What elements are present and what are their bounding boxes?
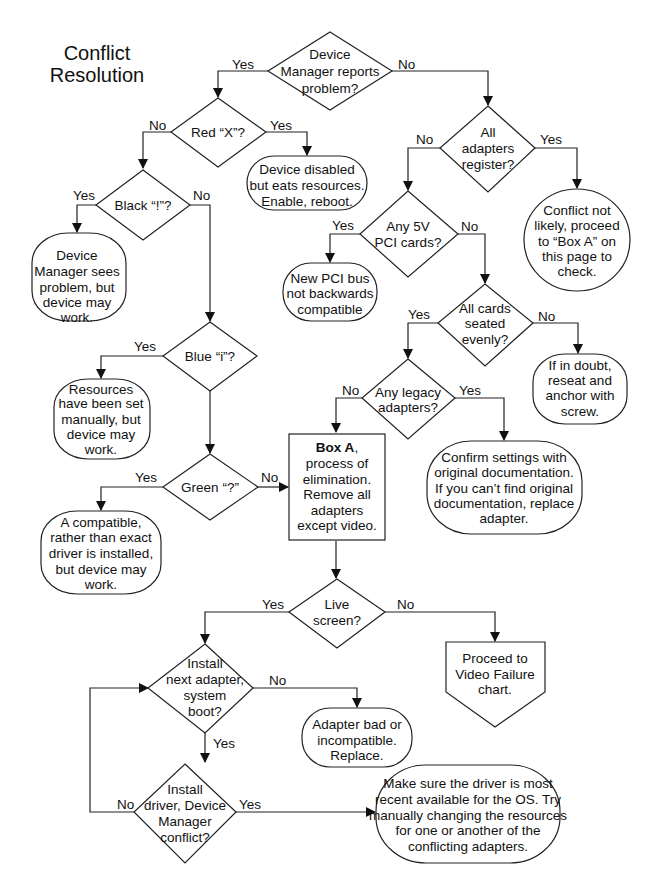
- svg-text:Yes: Yes: [232, 57, 254, 72]
- decision-red-x: Red “X”?: [171, 98, 266, 167]
- svg-text:compatible: compatible: [297, 302, 362, 317]
- svg-text:problem, but: problem, but: [39, 280, 114, 295]
- svg-text:process of: process of: [306, 456, 369, 471]
- svg-text:device may: device may: [43, 295, 112, 310]
- svg-text:No: No: [269, 673, 286, 688]
- svg-text:Yes: Yes: [332, 218, 354, 233]
- svg-text:for one or another of the: for one or another of the: [396, 823, 541, 838]
- svg-text:seated: seated: [465, 316, 506, 331]
- svg-text:driver, Device: driver, Device: [144, 798, 226, 813]
- svg-text:Blue “i”?: Blue “i”?: [185, 349, 235, 364]
- svg-text:No: No: [149, 118, 166, 133]
- svg-text:Video Failure: Video Failure: [455, 667, 534, 682]
- svg-text:Manager: Manager: [158, 814, 212, 829]
- svg-text:Green “?”: Green “?”: [181, 480, 239, 495]
- svg-text:device may: device may: [67, 427, 136, 442]
- outcome-video-failure: Proceed to Video Failure chart.: [446, 642, 545, 727]
- svg-text:Conflict not: Conflict not: [543, 203, 611, 218]
- svg-text:Device: Device: [56, 248, 97, 263]
- svg-text:evenly?: evenly?: [462, 332, 509, 347]
- svg-text:Any 5V: Any 5V: [386, 219, 430, 234]
- outcome-disabled: Device disabled but eats resources. Enab…: [247, 156, 367, 210]
- svg-text:Yes: Yes: [213, 736, 235, 751]
- svg-text:recent available for the OS. T: recent available for the OS. Try: [375, 792, 561, 807]
- decision-any-5v: Any 5V PCI cards?: [360, 191, 458, 277]
- svg-text:rather than exact: rather than exact: [50, 530, 152, 545]
- svg-text:A compatible,: A compatible,: [60, 515, 141, 530]
- svg-text:adapters?: adapters?: [378, 400, 438, 415]
- svg-text:Remove all: Remove all: [303, 487, 371, 502]
- svg-text:No: No: [538, 309, 555, 324]
- svg-text:work.: work.: [84, 577, 117, 592]
- svg-text:Yes: Yes: [134, 339, 156, 354]
- svg-text:Resolution: Resolution: [50, 64, 145, 86]
- svg-text:Enable, reboot.: Enable, reboot.: [261, 194, 353, 209]
- outcome-new-pci: New PCI bus not backwards compatible: [283, 263, 377, 321]
- svg-text:check.: check.: [557, 264, 596, 279]
- svg-text:system: system: [184, 688, 227, 703]
- svg-text:If you can’t find original: If you can’t find original: [435, 481, 573, 496]
- svg-text:adapters: adapters: [462, 141, 515, 156]
- svg-text:Make sure the driver is most: Make sure the driver is most: [383, 776, 553, 791]
- svg-text:screen?: screen?: [313, 613, 361, 628]
- svg-text:Install: Install: [187, 656, 222, 671]
- process-box-a: Box A, process of elimination. Remove al…: [289, 434, 385, 540]
- svg-text:problem?: problem?: [302, 81, 358, 96]
- svg-text:conflicting adapters.: conflicting adapters.: [408, 839, 528, 854]
- svg-text:Any legacy: Any legacy: [375, 385, 441, 400]
- svg-text:All cards: All cards: [459, 301, 511, 316]
- decision-install-driver: Install driver, Device Manager conflict?: [134, 764, 236, 863]
- outcome-dm-sees: Device Manager sees problem, but device …: [32, 233, 126, 325]
- svg-text:except video.: except video.: [297, 518, 377, 533]
- svg-text:manually changing the resource: manually changing the resources: [369, 808, 567, 823]
- svg-text:Red “X”?: Red “X”?: [191, 125, 245, 140]
- box-a-title: Box A: [316, 440, 355, 455]
- svg-text:Yes: Yes: [270, 118, 292, 133]
- svg-text:Yes: Yes: [262, 597, 284, 612]
- svg-text:anchor with: anchor with: [545, 388, 614, 403]
- svg-text:Proceed to: Proceed to: [462, 651, 527, 666]
- svg-text:Conflict: Conflict: [64, 42, 131, 64]
- svg-text:No: No: [398, 57, 415, 72]
- svg-text:manually, but: manually, but: [61, 412, 141, 427]
- svg-text:Manager sees: Manager sees: [34, 264, 120, 279]
- svg-text:driver is installed,: driver is installed,: [49, 546, 153, 561]
- outcome-reseat: If in doubt, reseat and anchor with scre…: [533, 354, 627, 424]
- svg-text:register?: register?: [462, 157, 515, 172]
- svg-text:to “Box A” on: to “Box A” on: [538, 234, 616, 249]
- svg-text:not backwards: not backwards: [286, 286, 373, 301]
- svg-text:Device disabled: Device disabled: [259, 162, 354, 177]
- svg-text:Live: Live: [325, 597, 350, 612]
- svg-text:Box A,: Box A,: [316, 440, 358, 455]
- svg-text:Confirm settings with: Confirm settings with: [441, 450, 566, 465]
- decision-install-next: Install next adapter, system boot?: [148, 644, 253, 733]
- svg-text:No: No: [342, 383, 359, 398]
- outcome-confirm: Confirm settings with original documenta…: [427, 441, 582, 534]
- svg-text:Yes: Yes: [540, 132, 562, 147]
- decision-device-manager: Device Manager reports problem?: [268, 32, 392, 110]
- svg-text:incompatible.: incompatible.: [317, 733, 397, 748]
- svg-text:Yes: Yes: [408, 307, 430, 322]
- svg-text:Black “!”?: Black “!”?: [114, 198, 171, 213]
- svg-text:reseat and: reseat and: [548, 373, 612, 388]
- outcome-compatible: A compatible, rather than exact driver i…: [41, 511, 161, 594]
- svg-text:adapters: adapters: [311, 503, 364, 518]
- svg-text:Install: Install: [167, 782, 202, 797]
- svg-text:No: No: [117, 797, 134, 812]
- svg-text:Manager reports: Manager reports: [280, 64, 379, 79]
- svg-text:If in doubt,: If in doubt,: [548, 358, 611, 373]
- svg-text:No: No: [193, 188, 210, 203]
- svg-text:Yes: Yes: [135, 470, 157, 485]
- svg-text:Yes: Yes: [459, 383, 481, 398]
- svg-text:screw.: screw.: [561, 404, 599, 419]
- svg-text:but eats resources.: but eats resources.: [250, 178, 365, 193]
- svg-text:New PCI bus: New PCI bus: [291, 271, 370, 286]
- decision-live-screen: Live screen?: [289, 579, 385, 648]
- svg-text:Device: Device: [309, 47, 350, 62]
- outcome-make-sure: Make sure the driver is most recent avai…: [369, 765, 567, 863]
- decision-blue-i: Blue “i”?: [163, 322, 257, 391]
- decision-green-q: Green “?”: [163, 454, 258, 520]
- svg-text:chart.: chart.: [478, 682, 512, 697]
- decision-legacy: Any legacy adapters?: [362, 359, 455, 439]
- svg-text:but device may: but device may: [56, 562, 147, 577]
